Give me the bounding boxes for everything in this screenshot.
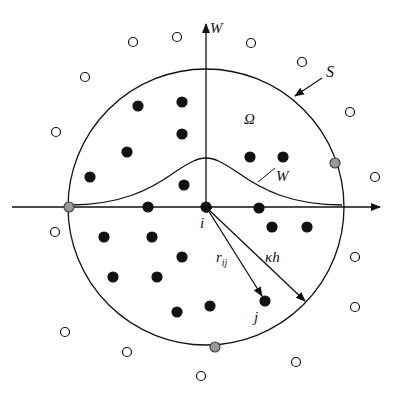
- boundary-particle: [330, 158, 340, 168]
- inner-particle: [177, 97, 187, 107]
- inner-particle: [147, 232, 157, 242]
- inner-particle: [152, 272, 162, 282]
- outer-particle: [173, 33, 182, 42]
- outer-particle: [247, 39, 256, 48]
- inner-particle: [85, 172, 95, 182]
- boundary-pointer-arrow: [295, 78, 322, 96]
- inner-particle: [179, 180, 189, 190]
- outer-particle: [346, 108, 355, 117]
- inner-particle: [201, 202, 211, 212]
- vertical-axis-label: W: [210, 20, 224, 36]
- boundary-particles: [64, 158, 340, 352]
- inner-particle: [172, 307, 182, 317]
- outer-particle: [81, 73, 90, 82]
- outer-particle: [51, 228, 60, 237]
- inner-particle: [302, 222, 312, 232]
- outer-particle: [351, 253, 360, 262]
- kappa-h-label: κh: [265, 249, 280, 265]
- boundary-particle: [210, 342, 220, 352]
- outer-particle: [298, 58, 307, 67]
- inner-particle: [122, 147, 132, 157]
- boundary-particle: [64, 202, 74, 212]
- inner-particle: [260, 296, 270, 306]
- outer-particle: [197, 372, 206, 381]
- inner-particle: [245, 152, 255, 162]
- inner-particle: [177, 252, 187, 262]
- outer-particle: [292, 358, 301, 367]
- rij-label: rij: [216, 249, 228, 268]
- outer-particle: [61, 328, 70, 337]
- outer-particle: [123, 348, 132, 357]
- inner-particle: [205, 301, 215, 311]
- kernel-label-leader: [258, 168, 275, 182]
- sph-kernel-diagram: W S Ω W i j rij κh: [0, 0, 393, 393]
- boundary-label: S: [326, 63, 334, 80]
- outer-particle: [129, 38, 138, 47]
- inner-particle: [267, 222, 277, 232]
- outer-particle: [351, 303, 360, 312]
- inner-particle: [177, 129, 187, 139]
- particle-j-label: j: [252, 309, 258, 325]
- outer-particle: [371, 173, 380, 182]
- inner-particle: [254, 203, 264, 213]
- kernel-label: W: [276, 168, 290, 184]
- inner-particle: [133, 101, 143, 111]
- inner-particle: [278, 152, 288, 162]
- domain-label: Ω: [244, 111, 255, 127]
- inner-particle: [108, 272, 118, 282]
- particle-i-label: i: [200, 215, 204, 231]
- inner-particle: [143, 202, 153, 212]
- outer-particle: [52, 128, 61, 137]
- inner-particle: [99, 232, 109, 242]
